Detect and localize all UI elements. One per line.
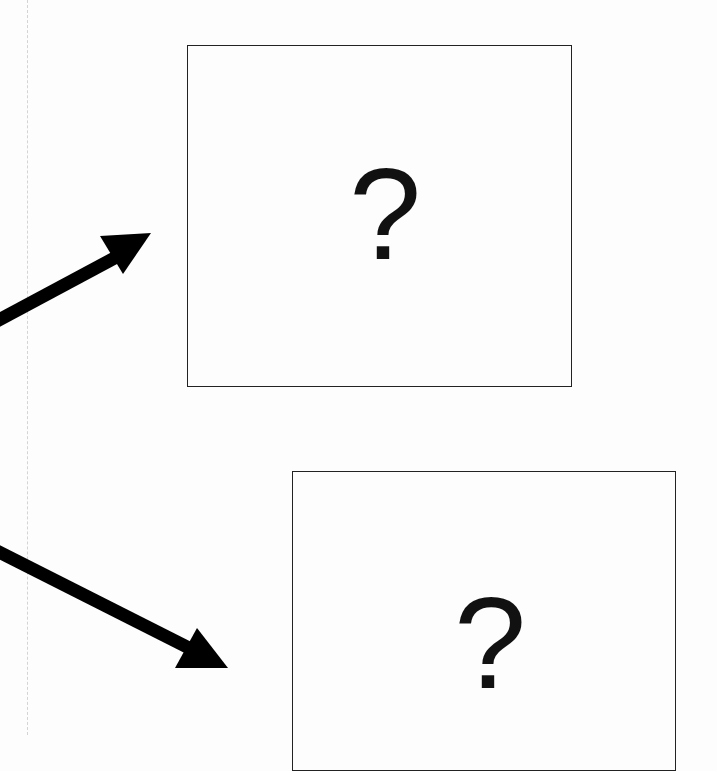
arrow-down-right [0, 550, 228, 668]
arrow-up-right [0, 233, 151, 322]
question-mark-bottom: ? [454, 578, 526, 708]
question-mark-top: ? [349, 149, 421, 279]
